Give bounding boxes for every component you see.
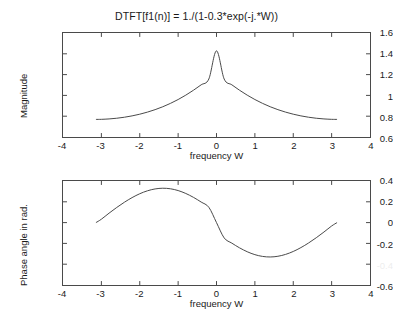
ytick-label: 1 — [337, 90, 393, 101]
phase-tick-marks — [63, 181, 370, 285]
phase-xaxis-label: frequency W — [62, 298, 371, 309]
ytick-label: 1.2 — [337, 69, 393, 80]
ytick-label: 0.2 — [337, 196, 393, 207]
figure-canvas: DTFT[f1(n)] = 1./(1-0.3*exp(-j.*W)) 0.60… — [0, 0, 393, 321]
ytick-label: -0.2 — [337, 238, 393, 249]
ytick-label: -0.6 — [337, 281, 393, 292]
figure-title: DTFT[f1(n)] = 1./(1-0.3*exp(-j.*W)) — [0, 10, 393, 22]
magnitude-plot-svg — [63, 33, 370, 137]
ytick-label: 1.4 — [337, 48, 393, 59]
magnitude-plot-axes — [62, 32, 371, 138]
magnitude-xaxis-label: frequency W — [62, 150, 371, 161]
magnitude-tick-marks — [63, 33, 370, 137]
phase-plot-axes — [62, 180, 371, 286]
ytick-label: -0.4 — [337, 259, 393, 270]
ytick-label: 0.6 — [337, 133, 393, 144]
magnitude-yaxis-label: Magnitude — [18, 74, 29, 118]
ytick-label: 0.4 — [337, 175, 393, 186]
ytick-label: 0.8 — [337, 111, 393, 122]
phase-yaxis-label: Phase angle in rad. — [18, 204, 29, 286]
phase-curve — [96, 188, 337, 257]
ytick-label: 0 — [337, 217, 393, 228]
magnitude-curve — [96, 51, 337, 120]
ytick-label: 1.6 — [337, 27, 393, 38]
phase-plot-svg — [63, 181, 370, 285]
